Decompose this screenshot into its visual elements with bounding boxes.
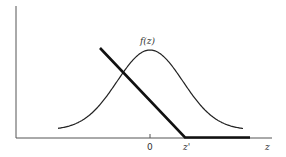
origin-tick-label: 0 [147, 142, 153, 152]
density-curve [58, 50, 243, 128]
function-diagram: f(z) 0 z' z [0, 0, 286, 157]
curve-label: f(z) [139, 36, 156, 46]
hinge-line [100, 48, 250, 138]
x-axis-label: z [264, 142, 270, 152]
threshold-tick-label: z' [182, 142, 190, 152]
